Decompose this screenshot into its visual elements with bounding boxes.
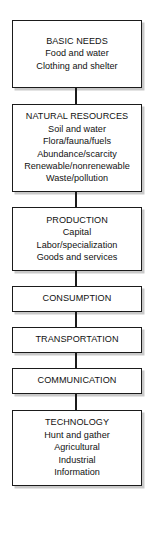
node-transportation: TRANSPORTATION [12,327,142,353]
node-detail-line: Renewable/nonrenewable [24,160,130,172]
node-production: PRODUCTION Capital Labor/specialization … [12,207,142,271]
node-detail-line: Goods and services [37,251,118,263]
node-detail-line: Labor/specialization [37,239,118,251]
node-title: COMMUNICATION [38,374,117,386]
node-title: NATURAL RESOURCES [26,110,128,122]
connector-basic-needs-to-natural-resources [12,88,142,104]
node-title: BASIC NEEDS [46,35,108,47]
node-detail-line: Waste/pollution [46,172,108,184]
node-detail-line: Agricultural [54,441,100,453]
flowchart-diagram: BASIC NEEDS Food and water Clothing and … [0,0,155,547]
node-consumption: CONSUMPTION [12,286,142,312]
node-detail-line: Soil and water [48,123,106,135]
node-detail-line: Clothing and shelter [36,60,117,72]
node-title: TECHNOLOGY [45,416,109,428]
node-detail-line: Industrial [58,454,95,466]
connector-transportation-to-communication [12,353,142,368]
node-detail-line: Hunt and gather [44,429,110,441]
node-basic-needs: BASIC NEEDS Food and water Clothing and … [12,20,142,88]
node-title: PRODUCTION [46,214,108,226]
node-detail-line: Abundance/scarcity [37,148,117,160]
connector-natural-resources-to-production [12,192,142,207]
node-communication: COMMUNICATION [12,368,142,394]
connector-production-to-consumption [12,271,142,286]
node-title: CONSUMPTION [43,292,112,304]
node-technology: TECHNOLOGY Hunt and gather Agricultural … [12,410,142,486]
node-detail-line: Flora/fauna/fuels [43,135,111,147]
node-title: TRANSPORTATION [35,333,118,345]
node-detail-line: Capital [63,226,91,238]
node-detail-line: Food and water [45,47,108,59]
connector-consumption-to-transportation [12,312,142,327]
node-detail-line: Information [54,466,100,478]
connector-communication-to-technology [12,394,142,410]
node-natural-resources: NATURAL RESOURCES Soil and water Flora/f… [12,104,142,192]
